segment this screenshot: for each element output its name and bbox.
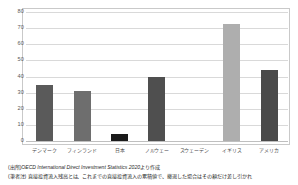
bar-slot xyxy=(101,12,138,141)
y-tick-label-80: 80 xyxy=(4,9,24,15)
y-tick-label-10: 10 xyxy=(4,122,24,128)
footnote-author-note: (筆者注) 直接投資流入残高とは、これまでの直接投資流入の累積値で、撤退した場合… xyxy=(8,172,296,181)
bar xyxy=(111,134,128,141)
gridline-0 xyxy=(26,141,288,142)
bar-slot xyxy=(213,12,250,141)
y-axis-tick-labels: 01020304050607080 xyxy=(0,12,24,141)
x-axis-category-labels: デンマークフィンランド日本ノルウェースウェーデンイギリスアメリカ xyxy=(26,148,288,153)
y-tick-label-40: 40 xyxy=(4,74,24,80)
chart-figure: 01020304050607080 デンマークフィンランド日本ノルウェースウェー… xyxy=(0,0,298,185)
bar-series xyxy=(26,12,288,141)
y-tick-label-70: 70 xyxy=(4,25,24,31)
bar xyxy=(36,85,53,141)
chart-footnotes: (出所)OECD International Direct Investment… xyxy=(8,163,296,181)
y-tick-label-60: 60 xyxy=(4,41,24,47)
bar-slot xyxy=(26,12,63,141)
footnote-source-prefix: (出所) xyxy=(8,164,21,170)
x-axis-label-4: スウェーデン xyxy=(176,148,213,153)
footnote-source: (出所)OECD International Direct Investment… xyxy=(8,163,296,172)
y-tick-label-20: 20 xyxy=(4,106,24,112)
x-axis-label-5: イギリス xyxy=(213,148,250,153)
bar xyxy=(148,77,165,142)
x-axis-label-3: ノルウェー xyxy=(138,148,175,153)
bar-slot xyxy=(138,12,175,141)
x-axis-label-0: デンマーク xyxy=(26,148,63,153)
bar xyxy=(261,70,278,141)
bar-slot xyxy=(63,12,100,141)
y-tick-label-30: 30 xyxy=(4,90,24,96)
x-axis-label-6: アメリカ xyxy=(251,148,288,153)
footnote-source-title: OECD International Direct Investment Sta… xyxy=(21,164,140,170)
bar xyxy=(74,91,91,141)
bar xyxy=(223,24,240,141)
y-tick-label-0: 0 xyxy=(4,138,24,144)
y-tick-label-50: 50 xyxy=(4,58,24,64)
x-axis-label-2: 日本 xyxy=(101,148,138,153)
x-axis-label-1: フィンランド xyxy=(63,148,100,153)
bar-slot xyxy=(176,12,213,141)
bar-slot xyxy=(251,12,288,141)
footnote-source-suffix: より作成 xyxy=(140,164,160,170)
